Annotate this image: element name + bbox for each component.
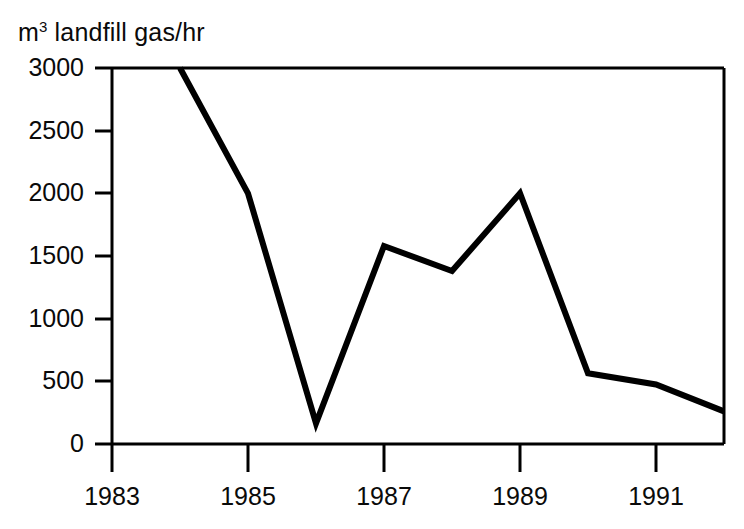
- y-tick-label-2000: 2000: [0, 178, 84, 207]
- plot-area: [0, 0, 744, 529]
- x-tick-label-1987: 1987: [324, 482, 444, 511]
- x-tick-label-1991: 1991: [596, 482, 716, 511]
- x-axis-ticks: [112, 444, 656, 472]
- y-tick-label-2500: 2500: [0, 116, 84, 145]
- y-tick-label-1500: 1500: [0, 241, 84, 270]
- y-tick-label-500: 500: [0, 366, 84, 395]
- y-tick-label-1000: 1000: [0, 304, 84, 333]
- x-tick-label-1989: 1989: [460, 482, 580, 511]
- data-series-line: [180, 68, 724, 423]
- x-tick-label-1983: 1983: [52, 482, 172, 511]
- y-tick-label-3000: 3000: [0, 53, 84, 82]
- y-tick-label-0: 0: [0, 429, 84, 458]
- x-tick-label-1985: 1985: [188, 482, 308, 511]
- chart-container: m3landfill gas/hr: [0, 0, 744, 529]
- y-axis-ticks: [95, 68, 112, 444]
